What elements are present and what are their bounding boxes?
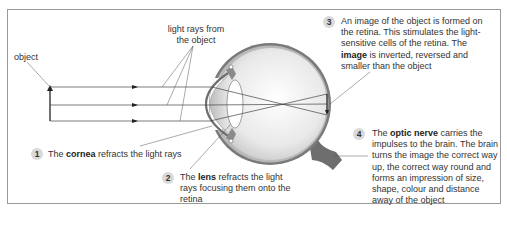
callout-2-keyword-lens: lens bbox=[198, 172, 216, 182]
callout-4-keyword-optic-nerve: optic nerve bbox=[390, 128, 438, 138]
object-label: object bbox=[14, 52, 38, 63]
callout-1-pre: The bbox=[48, 149, 66, 159]
callout-1-badge: 1 bbox=[31, 148, 43, 160]
callout-1-post: refracts the light rays bbox=[96, 149, 182, 159]
callout-4-text: The optic nerve carries the impulses to … bbox=[372, 128, 498, 206]
light-rays-label-line1: light rays from bbox=[160, 24, 232, 35]
callout-2-badge: 2 bbox=[162, 172, 174, 184]
callout-4-badge: 4 bbox=[353, 128, 365, 140]
callout-1-text: The cornea refracts the light rays bbox=[48, 149, 182, 160]
callout-4-pre: The bbox=[372, 128, 390, 138]
callout-3-keyword-image: image bbox=[341, 50, 367, 60]
callout-4-post: carries the impulses to the brain. The b… bbox=[372, 128, 498, 205]
ray-arrowheads bbox=[132, 85, 138, 123]
callout-3-pre: An image of the object is formed on the … bbox=[341, 16, 483, 48]
light-rays-label: light rays from the object bbox=[160, 24, 232, 46]
callout-3-badge: 3 bbox=[323, 16, 335, 28]
object-arrow bbox=[47, 85, 53, 121]
callout-1-keyword-cornea: cornea bbox=[66, 149, 96, 159]
callout-3-text: An image of the object is formed on the … bbox=[341, 16, 491, 72]
callout-2-pre: The bbox=[180, 172, 198, 182]
light-rays-label-line2: the object bbox=[160, 35, 232, 46]
callout-2-text: The lens refracts the light rays focusin… bbox=[180, 172, 300, 206]
lens bbox=[227, 80, 243, 128]
